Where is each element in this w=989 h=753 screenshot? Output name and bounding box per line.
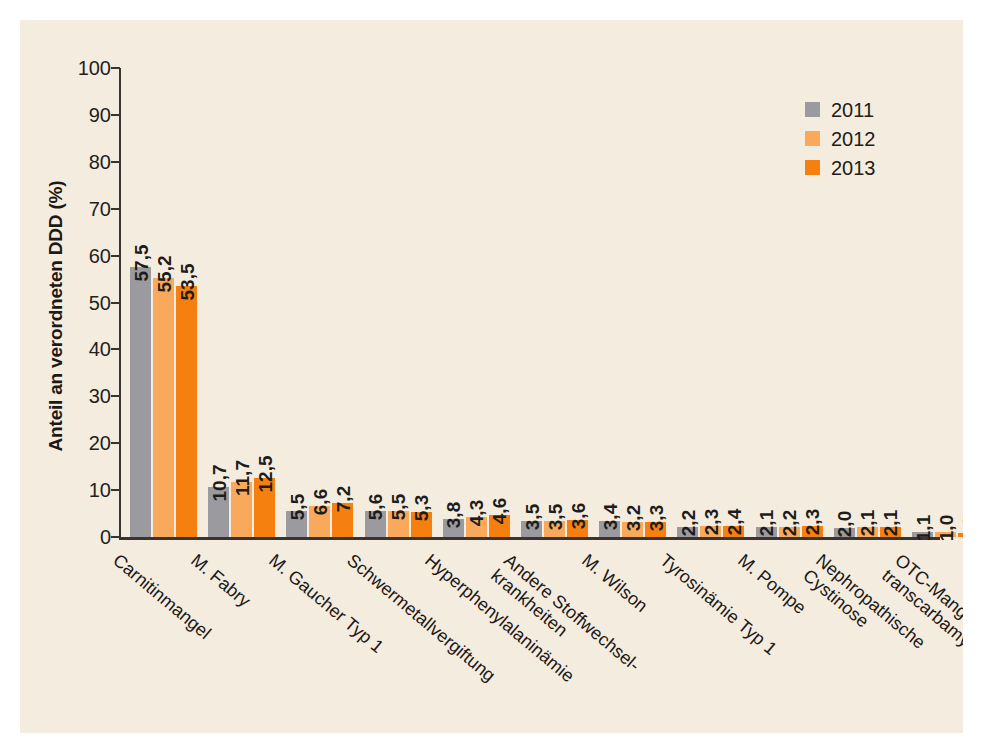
bar-value-text: 7,2 xyxy=(333,486,352,512)
bar-value-text: 0,9 xyxy=(959,516,963,542)
x-category-label-line: Schwermetallvergiftung xyxy=(343,550,499,686)
bar-value-text: 4,6 xyxy=(490,498,509,524)
bar-group: 3,84,34,6 xyxy=(443,68,510,537)
bar[interactable]: 5,3 xyxy=(411,512,432,537)
bar[interactable]: 11,7 xyxy=(231,482,252,537)
bar[interactable]: 57,5 xyxy=(130,267,151,537)
bar[interactable]: 3,2 xyxy=(622,522,643,537)
legend-color-swatch xyxy=(805,131,820,146)
y-tick-label: 100 xyxy=(51,58,111,78)
y-tick-mark xyxy=(111,489,120,491)
bar[interactable]: 5,6 xyxy=(365,511,386,537)
legend-color-swatch xyxy=(805,102,820,117)
bar-value-text: 5,5 xyxy=(287,494,306,520)
bar-group: 2,22,32,4 xyxy=(677,68,744,537)
y-tick-label: 90 xyxy=(51,105,111,125)
bar-value-text: 1,1 xyxy=(913,515,932,541)
bar-value-text: 5,5 xyxy=(389,494,408,520)
bar-value-text: 11,7 xyxy=(232,460,251,496)
bar[interactable]: 2,2 xyxy=(677,527,698,537)
x-category-label: Schwermetallvergiftung xyxy=(343,550,499,686)
bar-value-text: 2,2 xyxy=(678,509,697,535)
bar[interactable]: 4,3 xyxy=(466,517,487,537)
bar-value-text: 55,2 xyxy=(154,256,173,293)
bar-value-text: 3,6 xyxy=(568,503,587,529)
y-tick-mark xyxy=(111,208,120,210)
bar[interactable]: 2,1 xyxy=(880,527,901,537)
x-axis-category-labels: CarnitinmangelM. FabryM. Gaucher Typ 1Sc… xyxy=(20,540,963,733)
legend-item[interactable]: 2013 xyxy=(805,153,876,182)
bar-group: 1,11,00,9 xyxy=(912,68,963,537)
bar[interactable]: 5,5 xyxy=(388,511,409,537)
bar-group: 57,555,253,5 xyxy=(130,68,197,537)
y-tick-mark xyxy=(111,395,120,397)
bar-value-text: 3,5 xyxy=(522,503,541,529)
bar-value-text: 2,1 xyxy=(757,510,776,536)
bar-value-text: 57,5 xyxy=(131,245,150,282)
y-tick-label: 10 xyxy=(51,480,111,500)
bar-group: 3,53,53,6 xyxy=(521,68,588,537)
y-tick-mark xyxy=(111,67,120,69)
bar-value-text: 2,1 xyxy=(881,510,900,536)
bar[interactable]: 3,5 xyxy=(521,521,542,537)
x-category-label: M. Wilson xyxy=(578,550,651,616)
bar[interactable]: 2,3 xyxy=(802,526,823,537)
bar[interactable]: 2,0 xyxy=(834,528,855,537)
bar-value-text: 2,4 xyxy=(724,509,743,535)
bar-group: 10,711,712,5 xyxy=(208,68,275,537)
bar-value-text: 3,3 xyxy=(646,504,665,530)
bar[interactable]: 2,2 xyxy=(779,527,800,537)
bar[interactable]: 53,5 xyxy=(176,286,197,537)
bar-value-text: 12,5 xyxy=(255,456,274,493)
y-tick-mark xyxy=(111,348,120,350)
bar[interactable]: 5,5 xyxy=(286,511,307,537)
legend-item[interactable]: 2011 xyxy=(805,95,876,124)
chart-figure: 0102030405060708090100 Anteil an verordn… xyxy=(20,20,963,733)
bar[interactable]: 6,6 xyxy=(309,506,330,537)
bar-value-text: 53,5 xyxy=(177,264,196,301)
legend-color-swatch xyxy=(805,160,820,175)
bar-value-text: 6,6 xyxy=(310,489,329,515)
y-tick-label: 80 xyxy=(51,152,111,172)
y-tick-mark xyxy=(111,536,120,538)
legend-label: 2013 xyxy=(831,158,876,178)
bar[interactable]: 7,2 xyxy=(332,503,353,537)
legend-item[interactable]: 2012 xyxy=(805,124,876,153)
bar-value-text: 3,4 xyxy=(600,504,619,530)
x-category-label: M. Fabry xyxy=(187,550,254,611)
bar[interactable]: 2,3 xyxy=(700,526,721,537)
bar-value-text: 3,8 xyxy=(444,502,463,528)
bar[interactable]: 2,1 xyxy=(857,527,878,537)
bar[interactable]: 3,8 xyxy=(443,519,464,537)
bar-value-text: 4,3 xyxy=(467,500,486,526)
bar[interactable]: 0,9 xyxy=(958,533,963,537)
bar[interactable]: 3,3 xyxy=(645,522,666,537)
bar-value-text: 2,2 xyxy=(780,509,799,535)
bar[interactable]: 12,5 xyxy=(254,478,275,537)
bar[interactable]: 10,7 xyxy=(208,487,229,537)
bar-value-text: 2,3 xyxy=(701,509,720,535)
bar[interactable]: 3,6 xyxy=(567,520,588,537)
x-category-label-line: M. Wilson xyxy=(578,550,651,616)
bar[interactable]: 2,1 xyxy=(756,527,777,537)
bar[interactable]: 1,0 xyxy=(935,532,956,537)
bar[interactable]: 3,5 xyxy=(544,521,565,537)
x-category-label-line: M. Pompe xyxy=(734,550,810,618)
bar-value-text: 5,3 xyxy=(412,495,431,521)
bar-group: 5,65,55,3 xyxy=(365,68,432,537)
y-axis-title: Anteil an verordneten DDD (%) xyxy=(45,176,67,456)
bar[interactable]: 3,4 xyxy=(599,521,620,537)
bar-value-text: 3,2 xyxy=(623,505,642,531)
bar-value-text: 5,6 xyxy=(366,494,385,520)
bar-value-text: 2,1 xyxy=(858,510,877,536)
bar-value-text: 3,5 xyxy=(545,503,564,529)
bar[interactable]: 55,2 xyxy=(153,278,174,537)
x-category-label-line: Andere Stoffwechsel- xyxy=(500,550,644,675)
bar-group: 5,56,67,2 xyxy=(286,68,353,537)
bar-group: 3,43,23,3 xyxy=(599,68,666,537)
bar[interactable]: 4,6 xyxy=(489,515,510,537)
bar[interactable]: 1,1 xyxy=(912,532,933,537)
bar[interactable]: 2,4 xyxy=(723,526,744,537)
bar-value-text: 2,3 xyxy=(803,509,822,535)
x-category-label-line: M. Fabry xyxy=(187,550,254,611)
